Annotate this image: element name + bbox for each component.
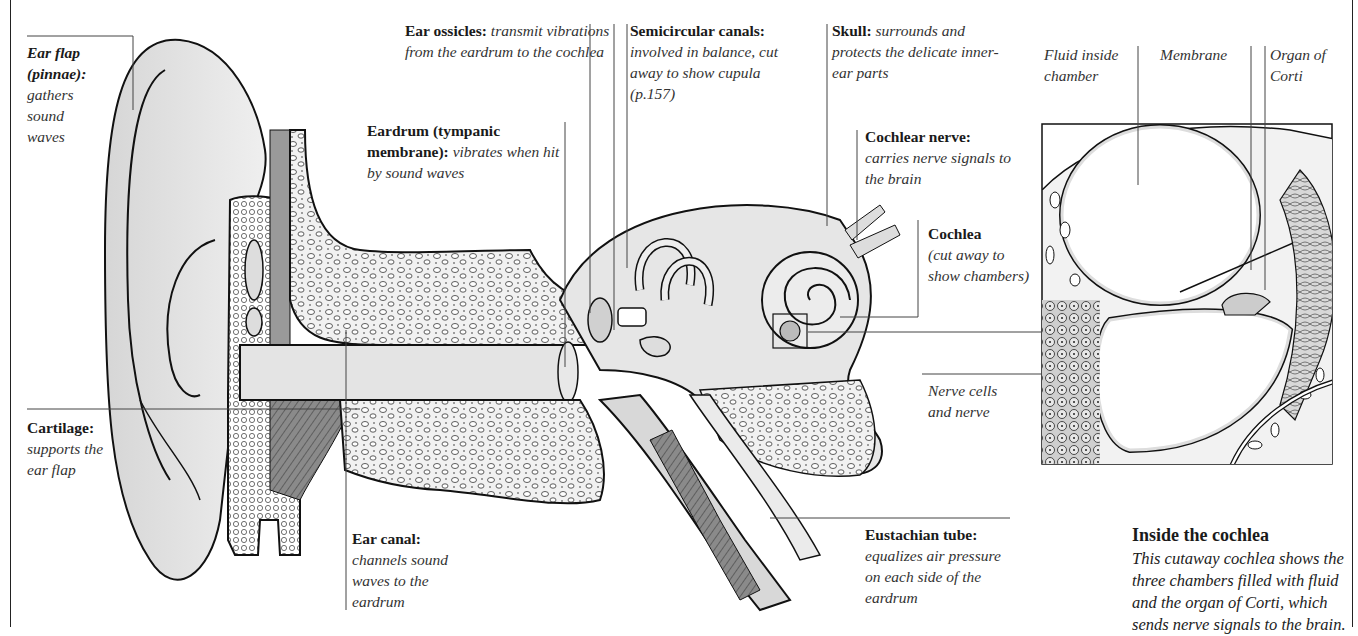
- label-membrane-desc: Membrane: [1160, 44, 1250, 65]
- label-organ-of-corti: Organ of Corti: [1270, 44, 1342, 86]
- label-cartilage-title: Cartilage:: [27, 417, 137, 438]
- cochlea-cross-section-inset: [1042, 124, 1340, 470]
- label-cochlea-desc: (cut away to show chambers): [928, 244, 1033, 286]
- eardrum-drawing: [558, 342, 578, 402]
- ossicles-drawing: [588, 298, 612, 342]
- label-organ-of-corti-desc: Organ of Corti: [1270, 44, 1342, 86]
- inset-caption-body: This cutaway cochlea shows the three cha…: [1132, 548, 1357, 636]
- label-skull-title: Skull:: [832, 22, 872, 39]
- label-cochlea: Cochlea (cut away to show chambers): [928, 223, 1033, 286]
- label-fluid-chamber-desc: Fluid inside chamber: [1044, 44, 1136, 86]
- label-fluid-chamber: Fluid inside chamber: [1044, 44, 1136, 86]
- label-ear-canal: Ear canal: channels sound waves to the e…: [352, 528, 477, 612]
- label-cochlea-title: Cochlea: [928, 223, 1033, 244]
- label-eustachian-tube: Eustachian tube: equalizes air pressure …: [865, 524, 1015, 608]
- label-cartilage-desc: supports the ear flap: [27, 438, 127, 480]
- label-cochlear-nerve-title: Cochlear nerve:: [865, 126, 1025, 147]
- ear-canal-drawing: [240, 345, 570, 400]
- label-ear-canal-desc: channels sound waves to the eardrum: [352, 549, 462, 612]
- label-semicircular-canals-title: Semicircular canals:: [630, 20, 810, 41]
- inset-caption-title: Inside the cochlea: [1132, 525, 1269, 546]
- label-nerve-cells: Nerve cells and nerve: [928, 380, 1013, 422]
- label-cartilage: Cartilage: supports the ear flap: [27, 417, 137, 480]
- label-cochlear-nerve-desc: carries nerve signals to the brain: [865, 147, 1025, 189]
- label-semicircular-canals: Semicircular canals: involved in balance…: [630, 20, 810, 104]
- label-ear-flap-title: Ear flap (pinnae):: [27, 42, 132, 84]
- label-eustachian-tube-title: Eustachian tube:: [865, 524, 1015, 545]
- skull-bone-lower: [340, 400, 604, 503]
- label-cochlear-nerve: Cochlear nerve: carries nerve signals to…: [865, 126, 1025, 189]
- label-eustachian-tube-desc: equalizes air pressure on each side of t…: [865, 545, 1010, 608]
- label-semicircular-canals-desc: involved in balance, cut away to show cu…: [630, 41, 780, 104]
- label-membrane: Membrane: [1160, 44, 1250, 65]
- label-ear-flap-desc: gathers sound waves: [27, 84, 87, 147]
- label-ear-canal-title: Ear canal:: [352, 528, 477, 549]
- label-ear-flap: Ear flap (pinnae): gathers sound waves: [27, 42, 132, 147]
- label-nerve-cells-desc: Nerve cells and nerve: [928, 380, 1013, 422]
- cochlea-drawing: [762, 252, 858, 348]
- label-ear-ossicles-title: Ear ossicles:: [405, 22, 487, 39]
- label-skull: Skull: surrounds and protects the delica…: [832, 20, 1007, 83]
- label-eardrum: Eardrum (tympanic membrane): vibrates wh…: [367, 120, 567, 183]
- label-ear-ossicles: Ear ossicles: transmit vibrations from t…: [405, 20, 615, 62]
